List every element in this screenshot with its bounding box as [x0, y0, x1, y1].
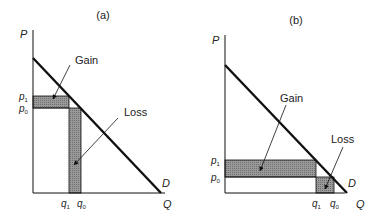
curve-label-b: D: [348, 177, 356, 189]
panel-b: (b) P Gain Loss D Q p1 p0 q1 q0: [210, 14, 365, 210]
p0-label-a: p0: [18, 103, 29, 115]
x-axis-label-b: Q: [356, 198, 365, 210]
gain-area-b: [225, 160, 316, 177]
q1-label-a: q1: [61, 198, 71, 210]
p0-label-b: p0: [210, 172, 221, 184]
panel-a: (a) P Gain Loss D Q p1 p0 q1 q0: [18, 9, 172, 210]
x-axis-label-a: Q: [163, 198, 172, 210]
diagram-canvas: (a) P Gain Loss D Q p1 p0 q1 q0 (b): [0, 0, 383, 218]
gain-label-b: Gain: [280, 92, 303, 104]
curve-label-a: D: [162, 177, 170, 189]
y-axis-label-a: P: [20, 28, 28, 40]
q1-label-b: q1: [312, 198, 322, 210]
panel-a-title: (a): [96, 9, 109, 21]
demand-curve-a: [33, 58, 161, 193]
p1-label-b: p1: [210, 155, 221, 167]
q0-label-b: q0: [330, 198, 340, 210]
gain-area-a: [33, 96, 69, 108]
loss-area-a: [69, 108, 81, 193]
gain-label-a: Gain: [75, 54, 98, 66]
loss-label-b: Loss: [331, 133, 355, 145]
loss-area-b: [316, 177, 334, 193]
panel-b-title: (b): [289, 14, 302, 26]
q0-label-a: q0: [77, 198, 87, 210]
p1-label-a: p1: [18, 91, 29, 103]
loss-label-a: Loss: [124, 106, 148, 118]
y-axis-label-b: P: [212, 34, 220, 46]
